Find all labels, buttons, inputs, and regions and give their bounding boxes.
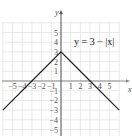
x-axis-label: x bbox=[127, 85, 132, 94]
equation-label: y = 3 − |x| bbox=[74, 36, 114, 47]
y-tick-label: −3 bbox=[49, 106, 58, 115]
y-tick-label: −2 bbox=[49, 96, 58, 105]
x-tick-label: 1 bbox=[69, 82, 73, 91]
y-tick-label: −5 bbox=[49, 126, 58, 135]
x-tick-label: −2 bbox=[37, 82, 46, 91]
y-tick-label: −1 bbox=[49, 87, 58, 96]
y-axis-label: y bbox=[54, 8, 59, 17]
x-tick-label: 2 bbox=[78, 82, 82, 91]
chart: y x −5−4−3−2−112345 54321−1−2−3−4−5 y = … bbox=[0, 0, 132, 136]
x-tick-label: 5 bbox=[108, 82, 112, 91]
y-tick-label: −4 bbox=[49, 116, 58, 125]
x-tick-label: −5 bbox=[8, 82, 17, 91]
y-tick-label: 1 bbox=[54, 67, 58, 76]
x-tick-label: −4 bbox=[18, 82, 27, 91]
y-axis bbox=[59, 10, 63, 136]
y-tick-label: 4 bbox=[54, 38, 58, 47]
x-tick-label: 3 bbox=[88, 82, 92, 91]
y-tick-label: 5 bbox=[54, 29, 58, 38]
